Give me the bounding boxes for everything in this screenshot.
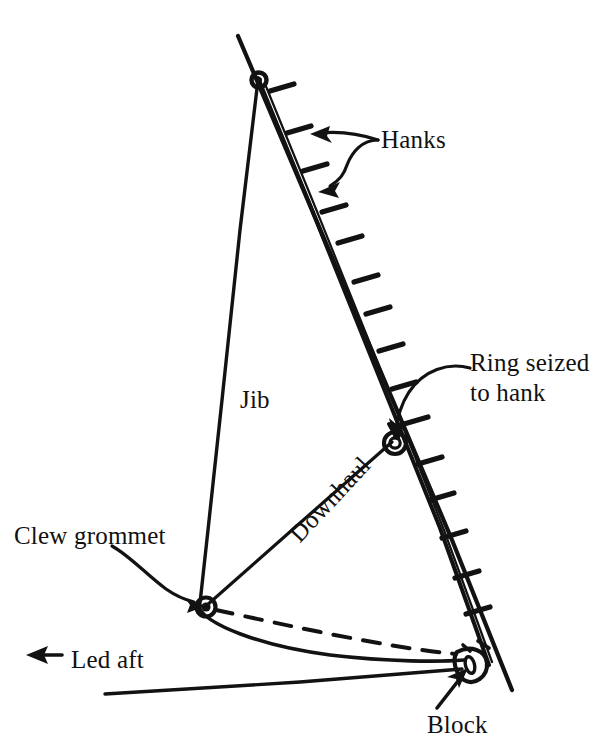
jib-foot-line [199, 607, 464, 661]
arrowhead [318, 182, 340, 198]
hank-mark [303, 164, 327, 171]
head-grommet-icon [252, 73, 267, 88]
hank-mark [379, 344, 403, 351]
hank-mark [338, 236, 362, 243]
hank-mark [287, 126, 311, 133]
sheet-led-aft-line [105, 669, 462, 694]
label-jib: Jib [240, 385, 270, 415]
jib-leech-line [200, 80, 258, 603]
hank-mark [322, 205, 346, 212]
label-clew-grommet: Clew grommet [14, 521, 166, 551]
hanks-leader [310, 126, 378, 198]
block-leader [437, 668, 468, 708]
label-led-aft: Led aft [71, 645, 144, 675]
label-ring-seized-to-hank: Ring seizedto hank [470, 348, 590, 407]
downhaul-dashed-line [216, 610, 456, 654]
led-aft-arrow-icon [26, 646, 62, 664]
jib-rigging-diagram: Hanks Ring seizedto hank Jib Clew gromme… [0, 0, 607, 746]
hank-mark [354, 275, 378, 282]
arrowhead [310, 126, 332, 143]
hank-mark [270, 84, 294, 91]
label-ring-line2: to hank [470, 379, 546, 406]
label-hanks: Hanks [381, 125, 446, 155]
label-ring-line1: Ring seized [470, 349, 590, 376]
hank-mark [366, 307, 390, 314]
label-block: Block [427, 710, 488, 740]
clew-leader [112, 546, 206, 613]
hank-mark [418, 457, 442, 464]
hank-mark [404, 417, 428, 424]
